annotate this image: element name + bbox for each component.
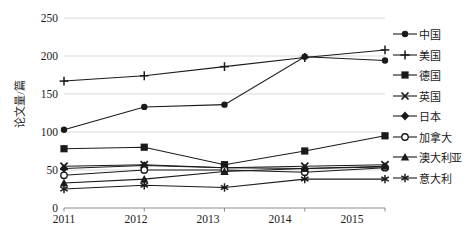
x-axis [64,208,385,212]
legend-item-germany[interactable]: 德国 [392,65,471,86]
legend-marker-filled-diamond-icon [392,106,418,126]
legend-label-germany: 德国 [418,67,441,83]
line-chart: 论文量/篇 250 200 150 100 50 0 2011 2012 201… [0,0,471,241]
legend-item-usa[interactable]: 美国 [392,45,471,66]
legend-label-usa: 美国 [418,47,441,63]
legend-marker-open-circle-icon [392,127,418,147]
legend-item-japan[interactable]: 日本 [392,106,471,127]
legend-marker-filled-circle-icon [392,24,418,44]
legend-marker-plus-icon [392,45,418,65]
legend-label-uk: 英国 [418,88,441,104]
chart-legend: 中国 美国 德国 英国 日本 [392,24,471,188]
legend-label-italy: 意大利 [418,170,451,186]
legend-label-canada: 加拿大 [418,129,451,145]
legend-marker-asterisk-icon [392,168,418,188]
series-7 [60,175,388,193]
series-1 [60,46,390,86]
series-2 [60,132,388,168]
legend-label-australia: 澳大利亚 [418,149,462,165]
legend-item-italy[interactable]: 意大利 [392,168,471,189]
legend-marker-cross-icon [392,86,418,106]
grid-lines [64,18,385,170]
legend-marker-filled-triangle-icon [392,147,418,167]
legend-item-china[interactable]: 中国 [392,24,471,45]
legend-item-uk[interactable]: 英国 [392,86,471,107]
legend-item-australia[interactable]: 澳大利亚 [392,147,471,168]
legend-label-japan: 日本 [418,108,441,124]
legend-marker-filled-square-icon [392,65,418,85]
legend-item-canada[interactable]: 加拿大 [392,127,471,148]
legend-label-china: 中国 [418,26,441,42]
